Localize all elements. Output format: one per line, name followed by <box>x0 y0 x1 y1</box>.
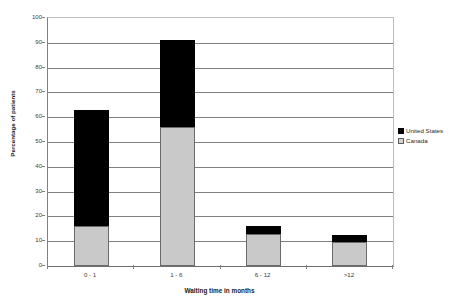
y-tick-label: 20 <box>20 212 42 218</box>
y-axis-title: Percentage of patients <box>9 69 16 179</box>
x-tick-label: >12 <box>314 271 384 279</box>
y-tick-label: 30 <box>20 188 42 194</box>
bar-segment-united-states[interactable] <box>332 235 367 242</box>
y-tick-label: 50 <box>20 138 42 144</box>
y-tick-mark <box>42 91 45 92</box>
y-tick-label: 10 <box>20 237 42 243</box>
x-tick-mark <box>133 265 134 269</box>
y-tick-mark <box>42 191 45 192</box>
legend-swatch-canada-icon <box>398 138 404 144</box>
y-tick-mark <box>42 166 45 167</box>
legend-item[interactable]: United States <box>398 126 450 135</box>
legend-item[interactable]: Canada <box>398 136 450 145</box>
y-tick-label: 100 <box>20 14 42 20</box>
bar-segment-united-states[interactable] <box>246 226 281 233</box>
legend-label: Canada <box>406 137 428 144</box>
y-tick-mark <box>42 42 45 43</box>
bar-segment-canada[interactable] <box>332 242 367 266</box>
bar-segment-united-states[interactable] <box>74 110 109 227</box>
y-tick-label: 40 <box>20 163 42 169</box>
y-axis-labels: 1009080706050403020100 <box>17 0 42 307</box>
y-tick-mark <box>42 17 45 18</box>
bar-segment-united-states[interactable] <box>160 40 195 127</box>
bar-group[interactable] <box>246 18 281 266</box>
bar-segment-canada[interactable] <box>246 234 281 266</box>
y-tick-label: 70 <box>20 88 42 94</box>
chart-title <box>0 0 392 1</box>
x-tick-label: 1 - 6 <box>141 271 211 279</box>
bar-group[interactable] <box>160 18 195 266</box>
y-tick-mark <box>42 265 45 266</box>
y-tick-label: 0 <box>20 262 42 268</box>
stacked-bar-chart: Percentage of patients 10090807060504030… <box>0 0 451 307</box>
x-tick-mark <box>306 265 307 269</box>
x-tick-mark <box>220 265 221 269</box>
y-tick-mark <box>42 141 45 142</box>
x-tick-label: 6 - 12 <box>228 271 298 279</box>
legend-swatch-united-states-icon <box>398 128 404 134</box>
bar-group[interactable] <box>332 18 367 266</box>
y-tick-label: 90 <box>20 39 42 45</box>
x-tick-mark <box>392 265 393 269</box>
bar-group[interactable] <box>74 18 109 266</box>
y-tick-label: 80 <box>20 64 42 70</box>
y-tick-mark <box>42 67 45 68</box>
bar-segment-canada[interactable] <box>74 226 109 266</box>
chart-legend: United StatesCanada <box>398 126 450 146</box>
x-axis-title: Waiting time in months <box>47 287 392 294</box>
legend-label: United States <box>406 127 443 134</box>
plot-area <box>47 17 394 267</box>
x-tick-label: 0 - 1 <box>55 271 125 279</box>
y-tick-mark <box>42 240 45 241</box>
x-tick-mark <box>47 265 48 269</box>
y-tick-mark <box>42 116 45 117</box>
y-tick-label: 60 <box>20 113 42 119</box>
bar-segment-canada[interactable] <box>160 127 195 266</box>
y-tick-mark <box>42 215 45 216</box>
